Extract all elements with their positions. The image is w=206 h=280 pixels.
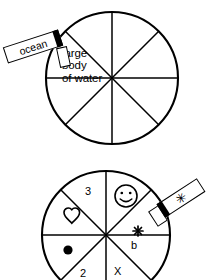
- sector-label-x: X: [114, 266, 121, 278]
- word-spinner-wheel[interactable]: [0, 0, 206, 150]
- smiley-face-icon: [115, 185, 137, 207]
- symbol-spinner-svg: [0, 160, 206, 280]
- filled-circle-icon: [63, 245, 72, 254]
- word-spinner-svg: [0, 0, 206, 150]
- sector-label-3: 3: [85, 186, 91, 198]
- sector-label-line-3: of water: [62, 72, 102, 84]
- worksheet-canvas: largebodyof water ocean: [0, 0, 206, 280]
- sector-label-b: b: [131, 240, 137, 252]
- symbol-spinner-wheel[interactable]: [0, 160, 206, 280]
- sector-label-2: 2: [80, 268, 86, 280]
- asterisk-icon: [133, 226, 143, 236]
